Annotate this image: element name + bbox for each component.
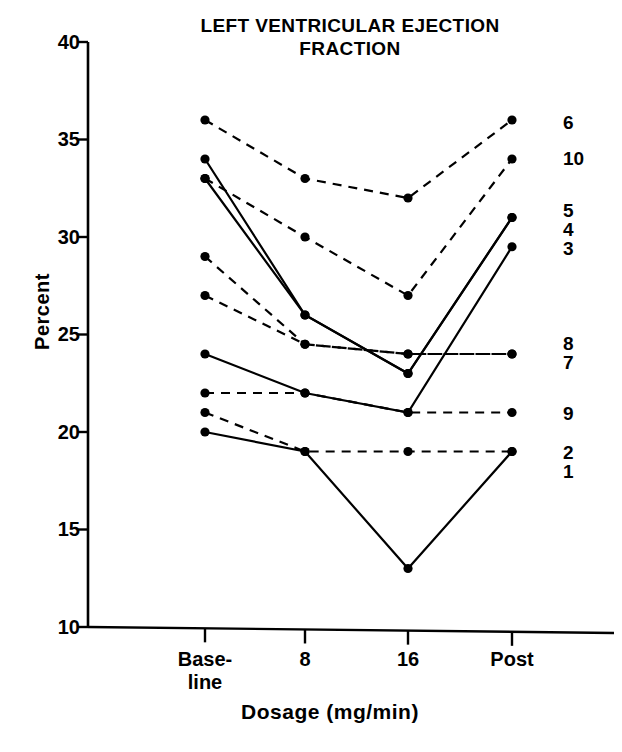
chart-series-lines [205, 120, 512, 569]
data-point-8 [403, 349, 412, 358]
data-point-2 [403, 447, 412, 456]
data-point-9 [200, 388, 209, 397]
data-point-9 [507, 408, 516, 417]
data-point-8 [300, 340, 309, 349]
data-point-3 [507, 242, 516, 251]
chart-axes [77, 42, 614, 646]
data-point-10 [507, 154, 516, 163]
series-line-6 [205, 120, 512, 198]
series-line-3 [205, 247, 512, 413]
chart-figure: LEFT VENTRICULAR EJECTION FRACTION Perce… [0, 0, 622, 752]
data-point-6 [200, 115, 209, 124]
series-line-8 [205, 257, 512, 355]
data-point-6 [507, 115, 516, 124]
data-point-10 [403, 291, 412, 300]
data-point-8 [200, 252, 209, 261]
series-line-2 [205, 413, 512, 452]
series-line-10 [205, 159, 512, 296]
data-point-9 [300, 388, 309, 397]
data-point-3 [200, 349, 209, 358]
series-line-5 [205, 179, 512, 374]
data-point-1 [403, 564, 412, 573]
data-point-2 [300, 447, 309, 456]
data-point-10 [300, 232, 309, 241]
data-point-8 [507, 349, 516, 358]
data-point-10 [200, 174, 209, 183]
data-point-4 [200, 154, 209, 163]
data-point-9 [403, 408, 412, 417]
data-point-7 [200, 291, 209, 300]
data-point-6 [403, 193, 412, 202]
data-point-5 [507, 213, 516, 222]
data-point-5 [300, 310, 309, 319]
data-point-1 [200, 427, 209, 436]
plot-area [0, 0, 622, 752]
data-point-2 [507, 447, 516, 456]
data-point-2 [200, 408, 209, 417]
data-point-6 [300, 174, 309, 183]
data-point-5 [403, 369, 412, 378]
